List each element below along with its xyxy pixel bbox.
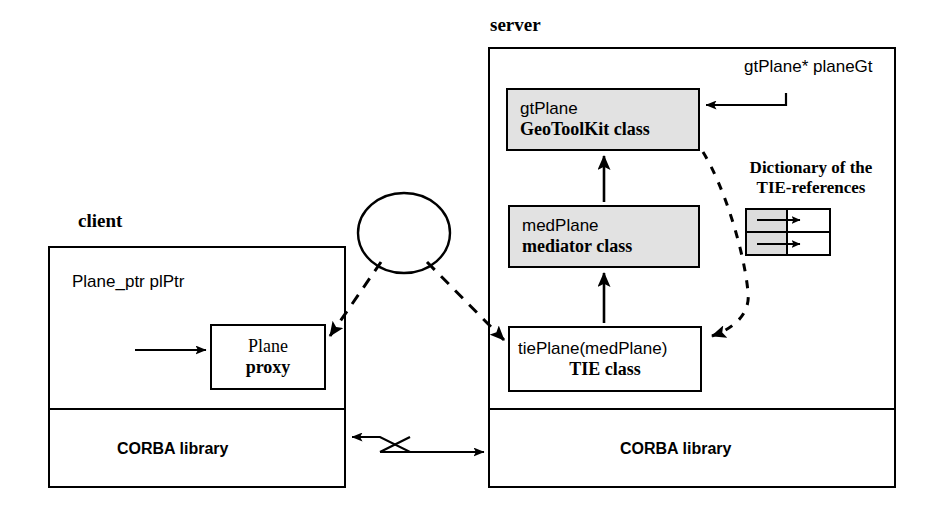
tie-ref-value-cell <box>788 210 829 231</box>
tieplane-tie-box[interactable]: tiePlane(medPlane) TIE class <box>508 326 702 392</box>
client-title: client <box>78 210 122 232</box>
medplane-line1: medPlane <box>522 216 599 236</box>
gtplane-line1: gtPlane <box>520 99 578 119</box>
tieplane-line2: TIE class <box>569 359 641 380</box>
plane-proxy-line2: proxy <box>246 357 291 378</box>
corba-link-to-client-arrow <box>352 437 438 452</box>
table-row[interactable] <box>747 231 829 254</box>
gtplane-geotoolkit-box[interactable]: gtPlane GeoToolKit class <box>506 88 700 151</box>
medplane-mediator-box[interactable]: medPlane mediator class <box>508 205 700 268</box>
server-corba-library-label: CORBA library <box>620 440 731 458</box>
medplane-line2: mediator class <box>522 236 632 257</box>
tieplane-line1: tiePlane(medPlane) <box>518 339 667 359</box>
tie-references-table[interactable] <box>745 208 831 256</box>
tie-ref-key-cell <box>747 210 788 231</box>
server-divider <box>488 408 896 410</box>
tie-ref-key-cell <box>747 233 788 254</box>
idl-spec-line2: Spec. <box>384 233 425 256</box>
tie-ref-value-cell <box>788 233 829 254</box>
diagram-canvas: client server Plane_ptr plPtr Plane prox… <box>0 0 943 514</box>
idl-spec-line1: IDL <box>388 211 420 234</box>
idl-spec-ellipse[interactable]: IDL Spec. <box>358 193 450 273</box>
dictionary-title: Dictionary of the TIE-references <box>727 158 895 197</box>
plane-proxy-line1: Plane <box>248 336 288 357</box>
gtplane-line2: GeoToolKit class <box>520 119 650 140</box>
dictionary-title-line1: Dictionary of the <box>727 158 895 178</box>
client-corba-library-label: CORBA library <box>117 440 228 458</box>
corba-link-zigzag <box>380 437 410 452</box>
plane-proxy-box[interactable]: Plane proxy <box>210 324 326 390</box>
client-divider <box>48 408 346 410</box>
gtplane-pointer-label: gtPlane* planeGt <box>744 57 873 77</box>
client-variable-label: Plane_ptr plPtr <box>72 272 184 292</box>
dictionary-title-line2: TIE-references <box>727 178 895 198</box>
server-title: server <box>490 14 541 36</box>
table-row[interactable] <box>747 210 829 231</box>
